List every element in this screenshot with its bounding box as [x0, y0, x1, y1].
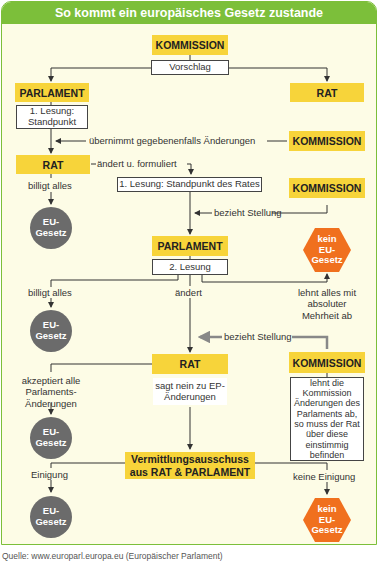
kommission-box-3: KOMMISSION [289, 178, 365, 198]
lesung-1-parlament-box: 1. Lesung: Standpunkt [16, 105, 88, 129]
kommission-proposer: KOMMISSION [152, 35, 228, 55]
vermittlungsausschuss-box: Vermittlungsausschuss aus RAT & PARLAMEN… [125, 452, 255, 479]
label-billigt-2: billigt alles [28, 287, 72, 298]
lesung-2-box: 2. Lesung [152, 259, 228, 275]
rat-box-2: RAT [16, 155, 90, 174]
label-akzeptiert-line-2: Parlaments- [15, 386, 87, 397]
vorschlag-box: Vorschlag [151, 60, 229, 75]
label-akzeptiert-line-3: Änderungen [15, 398, 87, 409]
label-aendert-formuliert: ändert u. formuliert [97, 158, 177, 169]
label-akzeptiert: akzeptiert alle Parlaments- Änderungen [15, 375, 87, 409]
rat-box-1: RAT [290, 83, 364, 102]
parlament-box-2: PARLAMENT [152, 236, 228, 256]
eu-gesetz-circle-1: EU-Gesetz [30, 207, 72, 249]
kein-eu-gesetz-label: kein EU-Gesetz [309, 504, 345, 535]
eu-gesetz-label: EU-Gesetz [34, 506, 68, 528]
vermittlung-line-1: Vermittlungsausschuss [131, 453, 249, 466]
lesung-1-rat-box: 1. Lesung: Standpunkt des Rates [117, 177, 262, 192]
label-keine-einigung: keine Einigung [293, 471, 355, 482]
label-aendert: ändert [175, 287, 202, 298]
label-sagt-nein: sagt nein zu EP- Änderungen [153, 378, 227, 405]
label-sagt-nein-line-1: sagt nein zu EP- [153, 380, 227, 391]
eu-gesetz-circle-3: EU-Gesetz [30, 417, 72, 459]
eu-gesetz-label: EU-Gesetz [34, 217, 68, 239]
rat-box-3: RAT [152, 354, 228, 374]
eu-gesetz-circle-4: EU-Gesetz [30, 496, 72, 538]
vermittlung-line-2: aus RAT & PARLAMENT [130, 466, 250, 479]
source-note: Quelle: www.europarl.europa.eu (Europäis… [2, 551, 223, 561]
eu-gesetz-label: EU-Gesetz [34, 427, 68, 449]
eu-gesetz-circle-2: EU-Gesetz [30, 310, 72, 352]
label-einigung: Einigung [31, 469, 68, 480]
parlament-box-1: PARLAMENT [15, 83, 89, 102]
diagram-frame: So kommt ein europäisches Gesetz zustand… [1, 1, 377, 545]
label-billigt-1: billigt alles [28, 180, 72, 191]
label-lehnt-line-1: lehnt alles mit [294, 287, 360, 298]
kommission-box-2: KOMMISSION [289, 131, 365, 151]
label-lehnt-line-3: Mehrheit ab [294, 310, 360, 321]
eu-gesetz-label: EU-Gesetz [34, 320, 68, 342]
label-bezieht-1: bezieht Stellung [214, 207, 282, 218]
kommission-box-4: KOMMISSION [289, 352, 365, 373]
label-lehnt-ab: lehnt alles mit absoluter Mehrheit ab [294, 287, 360, 321]
label-sagt-nein-line-2: Änderungen [153, 391, 227, 402]
label-lehnt-line-2: absoluter [294, 298, 360, 309]
label-akzeptiert-line-1: akzeptiert alle [15, 375, 87, 386]
kein-eu-gesetz-label: kein EU-Gesetz [309, 234, 345, 265]
label-uebernimmt: übernimmt gegebenenfalls Änderungen [89, 135, 255, 146]
label-bezieht-2: bezieht Stellung [224, 331, 292, 342]
kommission-note-box: lehnt die Kommission Änderungen des Parl… [290, 377, 364, 461]
